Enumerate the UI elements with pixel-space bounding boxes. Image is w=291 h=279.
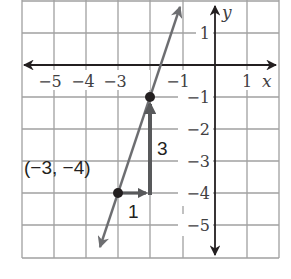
point-end [145, 92, 155, 102]
point-label: (−3, −4) [24, 157, 91, 178]
y-tick-label: −4 [186, 184, 210, 203]
x-tick-label: −3 [103, 72, 127, 91]
y-tick-label: 1 [200, 24, 210, 43]
rise-label: 3 [157, 138, 168, 159]
y-axis-label: y [221, 2, 232, 22]
run-label: 1 [128, 201, 139, 222]
graphed-line-lower [100, 193, 118, 247]
x-tick-label: −4 [71, 72, 95, 91]
y-tick-label: −1 [186, 88, 210, 107]
x-axis-label: x [262, 71, 272, 91]
coordinate-plane: −5 −4 −3 −1 1 x 1 −1 −2 −3 −4 −5 y (−3, … [0, 0, 291, 279]
y-tick-label: −2 [186, 120, 210, 139]
y-tick-label: −3 [186, 152, 210, 171]
point-start [113, 188, 123, 198]
y-tick-label: −5 [186, 216, 210, 235]
x-tick-label: −5 [38, 72, 62, 91]
x-tick-label: 1 [242, 72, 252, 91]
